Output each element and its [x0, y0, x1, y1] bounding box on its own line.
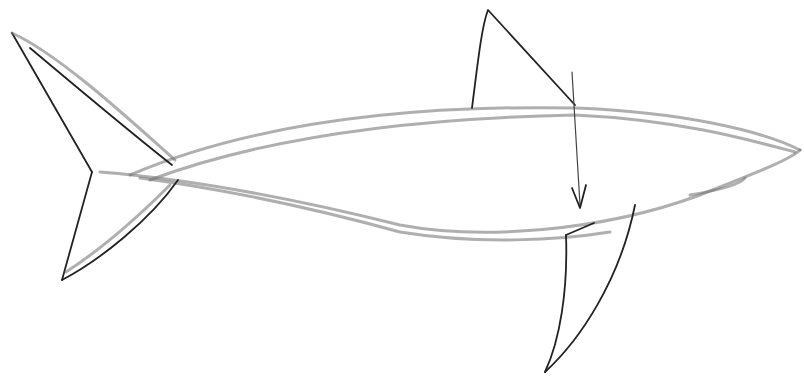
pectoral-fin-back — [545, 205, 635, 372]
body-top-shading-2 — [150, 115, 795, 180]
shark-sketch — [0, 0, 804, 389]
tail-upper-lobe-front — [12, 33, 92, 172]
pectoral-fin-front — [545, 235, 566, 372]
sketch-canvas — [0, 0, 804, 389]
tail-lower-shading — [66, 185, 170, 272]
tail-upper-lobe-back-line — [30, 48, 172, 165]
arrow-shaft — [572, 72, 580, 205]
dorsal-fin — [472, 10, 575, 108]
body-top-shading — [130, 108, 800, 175]
tail-upper-lobe-back — [12, 33, 175, 160]
